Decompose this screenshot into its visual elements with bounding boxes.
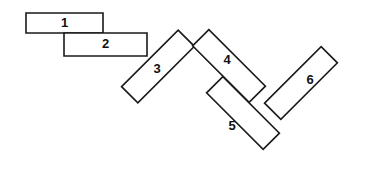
rectangle-label-1: 1 [61,15,68,30]
figure-container: Chain of six overlapping rectangles Six … [0,0,366,174]
shapes-layer [26,13,337,149]
rectangle-label-5: 5 [228,118,235,133]
rectangle-label-4: 4 [223,52,231,67]
rectangle-label-2: 2 [102,36,109,51]
rectangle-chain-diagram: Chain of six overlapping rectangles Six … [0,0,366,174]
rectangle-6 [265,47,338,120]
rectangle-label-6: 6 [306,72,313,87]
rectangle-label-3: 3 [153,61,160,76]
